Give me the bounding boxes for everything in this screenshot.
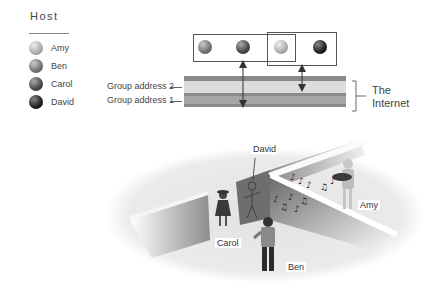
internet-band-bottom-stripe xyxy=(184,104,346,107)
legend-divider xyxy=(29,33,69,34)
legend-label-amy: Amy xyxy=(51,43,69,53)
scene-label-carol: Carol xyxy=(215,238,241,248)
host-amy-sphere-icon xyxy=(274,40,288,54)
sphere-ben-icon xyxy=(29,59,43,73)
office-scene-illustration: ♪♫♪ ♪♫ ♪♪♪ ♫♪ xyxy=(90,140,424,299)
group-address-2-label: Group address 2 xyxy=(107,81,174,91)
legend-title: Host xyxy=(30,10,59,22)
scene-label-ben: Ben xyxy=(286,262,306,272)
legend-label-ben: Ben xyxy=(51,61,67,71)
legend-label-david: David xyxy=(51,97,74,107)
svg-text:♪: ♪ xyxy=(294,204,300,214)
sphere-carol-icon xyxy=(29,77,43,91)
host-carol-sphere-icon xyxy=(236,40,250,54)
svg-text:♫: ♫ xyxy=(280,202,288,212)
group1-arrow-icon xyxy=(236,60,250,110)
group2-arrow-icon xyxy=(295,64,309,94)
legend-item-ben: Ben xyxy=(29,58,67,74)
svg-text:♪: ♪ xyxy=(306,180,312,190)
svg-text:♪: ♪ xyxy=(273,194,279,204)
group-address-1-band xyxy=(184,96,346,104)
group-address-2-band xyxy=(184,81,346,93)
internet-label: The Internet xyxy=(372,84,409,110)
scene-label-amy: Amy xyxy=(358,200,380,210)
sphere-david-icon xyxy=(29,95,43,109)
legend-item-amy: Amy xyxy=(29,40,69,56)
group-address-1-leader xyxy=(170,101,182,102)
svg-text:♫: ♫ xyxy=(320,182,328,192)
svg-text:♫: ♫ xyxy=(300,196,308,206)
svg-text:♪: ♪ xyxy=(290,172,296,182)
internet-label-line1: The xyxy=(372,84,409,97)
group-address-2-leader xyxy=(170,87,182,88)
legend-item-david: David xyxy=(29,94,74,110)
legend-label-carol: Carol xyxy=(51,79,73,89)
scene-label-david: David xyxy=(251,144,278,154)
svg-text:♪: ♪ xyxy=(288,192,294,202)
svg-text:♪: ♪ xyxy=(298,176,304,186)
host-ben-sphere-icon xyxy=(198,40,212,54)
legend-item-carol: Carol xyxy=(29,76,73,92)
host-david-sphere-icon xyxy=(313,40,327,54)
internet-label-line2: Internet xyxy=(372,97,409,110)
group-address-1-label: Group address 1 xyxy=(107,95,174,105)
internet-bracket xyxy=(350,80,370,112)
sphere-amy-icon xyxy=(29,41,43,55)
